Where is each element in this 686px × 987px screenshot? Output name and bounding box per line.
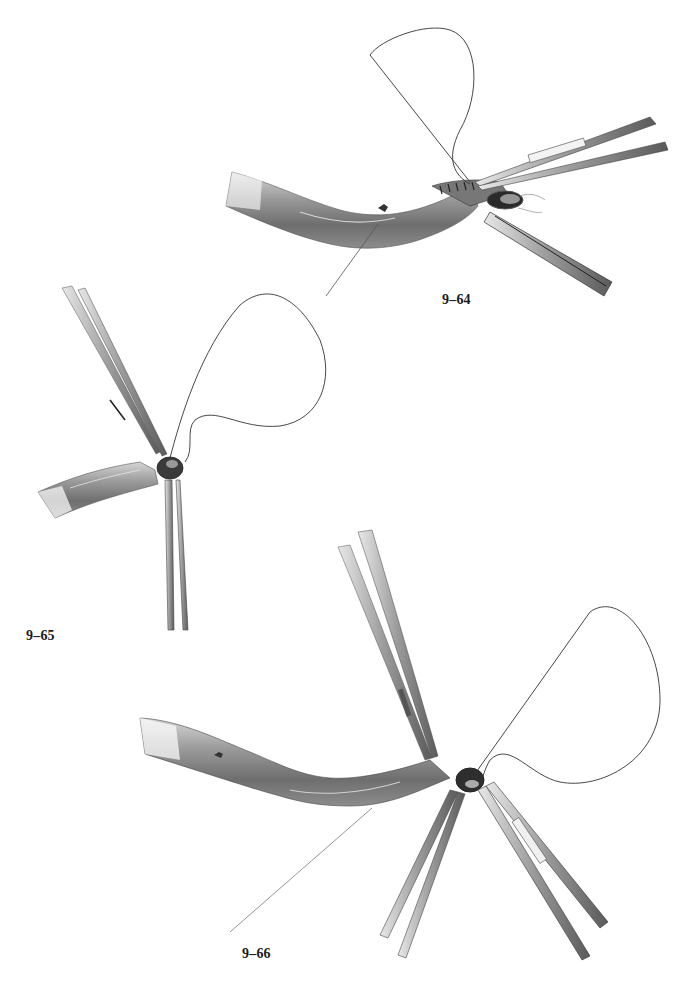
figure-label-9-66: 9–66 bbox=[242, 946, 271, 962]
figure-9-66-art bbox=[140, 530, 660, 960]
figure-label-9-65: 9–65 bbox=[26, 628, 55, 644]
surgical-illustrations bbox=[0, 0, 686, 987]
figure-label-9-64: 9–64 bbox=[442, 292, 471, 308]
document-page: 9–64 9–65 9–66 bbox=[0, 0, 686, 987]
figure-9-65-art bbox=[38, 286, 326, 630]
figure-9-64-art bbox=[226, 28, 668, 296]
